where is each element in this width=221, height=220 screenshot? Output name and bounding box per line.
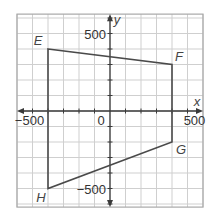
vertex-label-h: H — [36, 190, 46, 205]
x-tick-label-500: 500 — [184, 113, 206, 128]
origin-label: 0 — [97, 113, 104, 128]
y-tick-label-neg500: −500 — [77, 182, 106, 197]
y-tick-label-500: 500 — [84, 27, 106, 42]
vertex-label-f: F — [175, 49, 184, 64]
axes — [17, 14, 203, 207]
x-tick-label-neg500: −500 — [15, 113, 44, 128]
vertex-label-g: G — [176, 142, 186, 157]
coordinate-plane: −5005000500−500xyEFGH — [0, 0, 221, 220]
x-axis-label: x — [193, 94, 201, 109]
vertex-label-e: E — [34, 33, 43, 48]
